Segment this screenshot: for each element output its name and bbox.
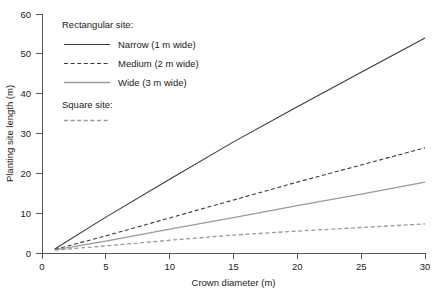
series-line-narrow [55,38,425,249]
x-axis-title: Crown diameter (m) [192,277,276,288]
chart-figure: 0 10 20 30 40 50 60 0 5 10 15 20 25 30 [0,0,439,290]
x-tick-label: 5 [103,261,108,272]
y-tick-label: 10 [20,208,31,219]
legend-group-rectangular: Rectangular site: [62,19,133,30]
x-axis-ticks [42,253,425,259]
line-chart-canvas: 0 10 20 30 40 50 60 0 5 10 15 20 25 30 [0,0,439,290]
x-axis-tick-labels: 0 5 10 15 20 25 30 [39,261,430,272]
x-tick-label: 10 [164,261,175,272]
y-tick-label: 60 [20,9,31,20]
y-tick-label: 50 [20,48,31,59]
y-tick-label: 20 [20,168,31,179]
y-tick-label: 0 [26,248,31,259]
series-line-wide [55,182,425,250]
x-tick-label: 0 [39,261,44,272]
x-tick-label: 25 [356,261,367,272]
x-tick-label: 30 [420,261,431,272]
legend-group-square: Square site: [62,99,113,110]
legend-label-narrow: Narrow (1 m wide) [118,39,196,50]
y-axis-tick-labels: 0 10 20 30 40 50 60 [20,9,31,259]
y-axis-ticks [36,14,42,253]
chart-legend: Rectangular site: Narrow (1 m wide) Medi… [62,19,199,121]
legend-label-wide: Wide (3 m wide) [118,77,187,88]
y-axis-title: Planting site length (m) [4,85,15,182]
x-tick-label: 15 [228,261,239,272]
series-line-square [55,224,425,250]
y-tick-label: 30 [20,128,31,139]
x-tick-label: 20 [292,261,303,272]
legend-label-medium: Medium (2 m wide) [118,58,199,69]
y-tick-label: 40 [20,88,31,99]
